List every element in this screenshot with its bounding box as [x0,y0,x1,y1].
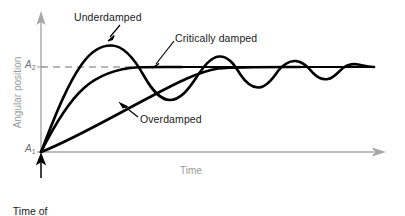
y-tick-label-a2-base: A [25,59,32,70]
time-of-transient-annotation-label: Time of transient [10,181,50,216]
critically-damped-leader-line [156,41,174,64]
overdamped-leader-arrow-icon [120,103,127,108]
underdamped-curve [41,45,374,152]
critically-damped-curve [41,67,182,152]
y-tick-label-a2-subscript: 2 [32,64,36,71]
annotation-leaders-group [37,25,174,178]
x-axis-arrow-icon [372,147,386,156]
overdamped-annotation-label: Overdamped [140,113,202,125]
underdamped-annotation-label: Underdamped [74,11,142,23]
transient-response-figure: Angular position Time A2 A1 Underdamped … [0,0,405,216]
underdamped-leader-line [110,25,120,37]
y-tick-label-a1-subscript: 1 [32,148,36,155]
x-axis-label: Time [180,165,202,176]
overdamped-curve [41,67,300,152]
critically-damped-annotation-label: Critically damped [175,32,257,44]
y-tick-label-a2: A2 [25,59,36,71]
y-tick-label-a1-base: A [25,143,32,154]
time-of-transient-line-1: Time of [10,205,50,216]
y-tick-label-a1: A1 [25,143,36,155]
curves-group [41,45,374,152]
y-axis-label: Angular position [12,43,23,143]
